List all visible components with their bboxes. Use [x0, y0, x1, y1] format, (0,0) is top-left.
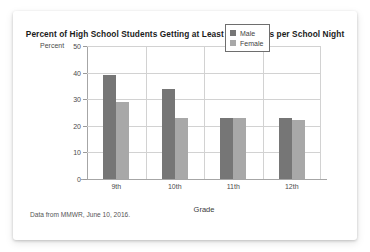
y-tick-label: 10	[73, 149, 81, 156]
chart-title: Percent of High School Students Getting …	[13, 29, 357, 39]
legend-item-female: Female	[230, 38, 263, 48]
x-tick-label: 9th	[111, 183, 121, 190]
y-tick-mark	[83, 179, 87, 180]
bar-9th-female	[116, 102, 129, 179]
legend-label-female: Female	[240, 40, 263, 47]
bar-11th-male	[220, 118, 233, 179]
gridline-vertical	[204, 46, 205, 179]
y-tick-mark	[83, 73, 87, 74]
bar-10th-male	[162, 89, 175, 179]
y-axis-title: Percent	[40, 42, 64, 49]
bar-10th-female	[175, 118, 188, 179]
y-tick-mark	[83, 99, 87, 100]
y-tick-label: 40	[73, 69, 81, 76]
bar-11th-female	[233, 118, 246, 179]
chart-card: Percent of High School Students Getting …	[13, 11, 357, 240]
gridline-vertical	[146, 46, 147, 179]
x-tick-label: 12th	[285, 183, 299, 190]
legend-item-male: Male	[230, 28, 263, 38]
x-tick-label: 11th	[227, 183, 240, 190]
y-tick-mark	[83, 152, 87, 153]
gridline-vertical	[263, 46, 264, 179]
source-note: Data from MMWR, June 10, 2016.	[30, 211, 130, 218]
legend-label-male: Male	[240, 30, 255, 37]
gridline-vertical	[320, 46, 321, 179]
x-axis-line	[81, 179, 327, 180]
screenshot-root: Percent of High School Students Getting …	[0, 0, 370, 252]
y-tick-label: 20	[73, 122, 81, 129]
y-tick-mark	[83, 46, 87, 47]
x-tick-label: 10th	[168, 183, 182, 190]
chart-legend: Male Female	[225, 24, 270, 52]
bar-9th-male	[103, 75, 116, 179]
legend-swatch-female	[230, 40, 236, 46]
y-tick-label: 50	[73, 43, 81, 50]
y-tick-label: 0	[77, 176, 81, 183]
plot-area: Grade 010203040509th10th11th12th	[87, 46, 321, 179]
bar-12th-female	[292, 120, 305, 179]
bar-12th-male	[279, 118, 292, 179]
legend-swatch-male	[230, 30, 236, 36]
y-tick-mark	[83, 126, 87, 127]
y-tick-label: 30	[73, 96, 81, 103]
